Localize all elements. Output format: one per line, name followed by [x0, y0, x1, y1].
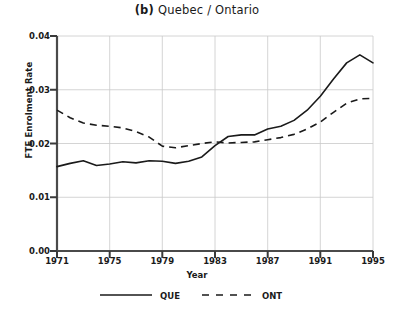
y-tick-label-4: 0.04 [14, 31, 50, 41]
legend-label-que: QUE [160, 291, 180, 301]
chart-title: (b)Quebec / Ontario [0, 3, 394, 17]
x-tick-label-1983: 1983 [193, 256, 237, 266]
legend-label-ont: ONT [262, 291, 282, 301]
y-tick-label-3: 0.03 [14, 85, 50, 95]
axes [50, 36, 373, 258]
y-tick-label-2: 0.02 [14, 139, 50, 149]
y-tick-label-1: 0.01 [14, 192, 50, 202]
chart-figure: (b)Quebec / Ontario FTE Enrolment Rate Y… [0, 0, 394, 309]
y-tick-label-0: 0.00 [14, 246, 50, 256]
chart-title-panel-label: (b) [135, 3, 154, 17]
x-tick-label-1971: 1971 [35, 256, 79, 266]
x-tick-label-1979: 1979 [140, 256, 184, 266]
gridlines [57, 36, 373, 251]
x-axis-label: Year [0, 270, 394, 280]
chart-title-text: Quebec / Ontario [158, 3, 259, 17]
x-tick-label-1975: 1975 [88, 256, 132, 266]
x-tick-label-1991: 1991 [298, 256, 342, 266]
x-tick-label-1995: 1995 [351, 256, 394, 266]
x-tick-label-1987: 1987 [246, 256, 290, 266]
